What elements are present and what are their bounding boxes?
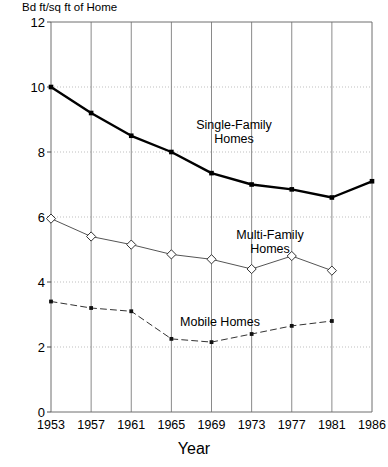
data-point-marker xyxy=(207,255,216,264)
data-point-marker xyxy=(89,306,93,310)
y-axis-tick-label: 4 xyxy=(5,275,45,290)
data-point-marker xyxy=(129,133,134,138)
plot-canvas xyxy=(0,0,388,467)
x-axis-title: Year xyxy=(0,440,388,458)
data-point-marker xyxy=(289,187,294,192)
data-point-marker xyxy=(89,111,94,116)
x-axis-tick-label: 1981 xyxy=(318,418,346,432)
annotation-3: Mobile Homes xyxy=(180,315,260,329)
data-point-marker xyxy=(167,250,176,259)
data-point-marker xyxy=(127,240,136,249)
y-axis-tick-label: 10 xyxy=(5,80,45,95)
data-point-marker xyxy=(210,340,214,344)
data-point-marker xyxy=(247,264,256,273)
data-point-marker xyxy=(129,309,133,313)
chart-figure: Bd ft/sq ft of Home 024681012 1953195719… xyxy=(0,0,388,467)
y-axis-tick-label: 2 xyxy=(5,340,45,355)
x-axis-tick-label: 1953 xyxy=(37,418,65,432)
data-point-marker xyxy=(290,324,294,328)
data-point-marker xyxy=(250,332,254,336)
data-point-marker xyxy=(370,179,375,184)
annotation-1: Single-FamilyHomes xyxy=(196,118,272,147)
data-point-marker xyxy=(46,214,55,223)
data-point-marker xyxy=(87,232,96,241)
annotation-line-2: Homes xyxy=(236,242,303,256)
y-axis-tick-label: 12 xyxy=(5,15,45,30)
data-point-marker xyxy=(49,300,53,304)
y-axis-tick-label: 6 xyxy=(5,210,45,225)
data-point-marker xyxy=(49,85,54,90)
data-point-marker xyxy=(330,195,335,200)
annotation-line-1: Single-Family xyxy=(196,118,272,132)
data-point-marker xyxy=(327,266,336,275)
annotation-line-1: Mobile Homes xyxy=(180,315,260,329)
y-axis-tick-label: 8 xyxy=(5,145,45,160)
x-axis-tick-label: 1977 xyxy=(278,418,306,432)
data-point-marker xyxy=(169,337,173,341)
data-point-marker xyxy=(330,319,334,323)
annotation-2: Multi-FamilyHomes xyxy=(236,228,303,257)
annotation-line-1: Multi-Family xyxy=(236,228,303,242)
data-point-marker xyxy=(169,150,174,155)
x-axis-tick-label: 1969 xyxy=(198,418,226,432)
x-axis-tick-label: 1957 xyxy=(77,418,105,432)
data-point-marker xyxy=(209,171,214,176)
x-axis-tick-label: 1986 xyxy=(358,418,386,432)
x-axis-tick-label: 1973 xyxy=(238,418,266,432)
data-point-marker xyxy=(249,182,254,187)
x-axis-tick-label: 1965 xyxy=(157,418,185,432)
annotation-line-2: Homes xyxy=(196,132,272,146)
x-axis-tick-label: 1961 xyxy=(117,418,145,432)
